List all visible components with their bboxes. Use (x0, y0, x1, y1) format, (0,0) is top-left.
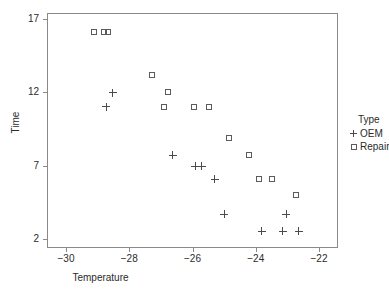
x-tick (319, 248, 320, 252)
y-tick (43, 166, 47, 167)
plus-marker-icon (350, 129, 358, 139)
y-tick (43, 92, 47, 93)
y-tick-label: 7 (13, 160, 39, 172)
x-axis-title-text: Temperature (72, 272, 128, 283)
x-tick-label: −26 (173, 253, 213, 265)
x-tick (193, 248, 194, 252)
y-tick (43, 239, 47, 240)
legend: Type OEM Repair (350, 113, 389, 153)
y-tick-label: 12 (13, 86, 39, 98)
legend-title: Type (350, 113, 389, 126)
legend-item-repair-label: Repair (360, 140, 389, 153)
plot-data-area (47, 13, 338, 248)
x-tick (66, 248, 67, 252)
x-tick-label: −24 (236, 253, 276, 265)
x-tick-label: −28 (109, 253, 149, 265)
x-tick-label: −30 (46, 253, 86, 265)
square-marker-icon (350, 142, 358, 152)
x-axis-title: Temperature (0, 272, 389, 283)
scatter-plot-figure: −30−28−26−24−22 271217 Temperature Time … (0, 0, 389, 298)
x-tick-label: −22 (299, 253, 339, 265)
legend-item-oem: OEM (350, 127, 389, 140)
y-tick (43, 19, 47, 20)
y-axis-title: Time (10, 99, 21, 147)
legend-item-oem-label: OEM (360, 127, 383, 140)
y-tick-label: 2 (13, 233, 39, 245)
x-tick (129, 248, 130, 252)
y-tick-label: 17 (13, 13, 39, 25)
legend-item-repair: Repair (350, 140, 389, 153)
x-tick (256, 248, 257, 252)
